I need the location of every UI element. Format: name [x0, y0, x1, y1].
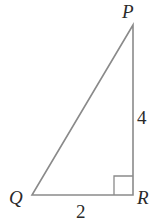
right-angle-marker	[114, 176, 133, 195]
vertex-label-p: P	[121, 1, 134, 22]
side-label-qr: 2	[76, 201, 86, 220]
vertex-label-q: Q	[9, 187, 23, 208]
side-label-pr: 4	[137, 107, 147, 128]
triangle-pqr	[32, 25, 133, 195]
triangle-diagram: P Q R 4 2	[0, 0, 167, 220]
vertex-label-r: R	[136, 187, 149, 208]
